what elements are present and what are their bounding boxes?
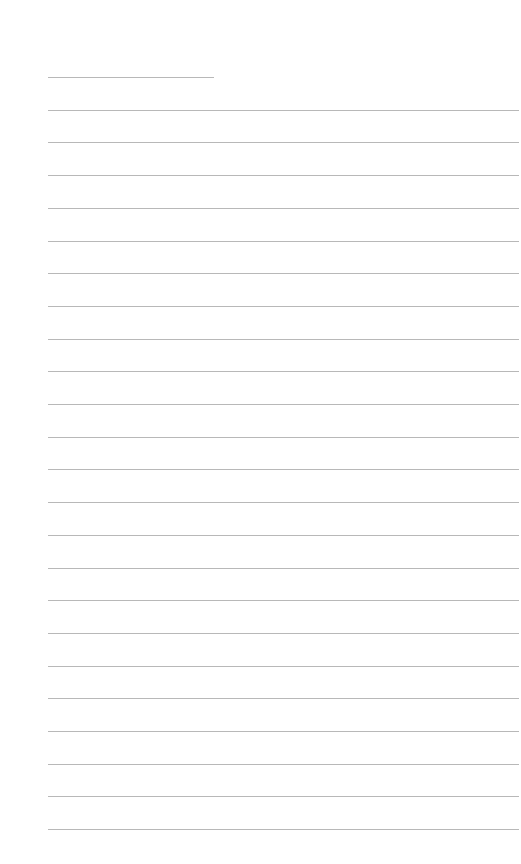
ruled-line (48, 469, 519, 470)
ruled-line (48, 764, 519, 765)
ruled-line (48, 796, 519, 797)
ruled-line (48, 568, 519, 569)
ruled-line (48, 698, 519, 699)
lined-paper-page (0, 0, 521, 864)
ruled-line (48, 110, 519, 111)
ruled-line (48, 437, 519, 438)
title-rule-line (48, 77, 214, 78)
ruled-line (48, 208, 519, 209)
ruled-line (48, 666, 519, 667)
ruled-line (48, 142, 519, 143)
ruled-line (48, 339, 519, 340)
ruled-line (48, 175, 519, 176)
ruled-line (48, 404, 519, 405)
ruled-line (48, 731, 519, 732)
ruled-line (48, 502, 519, 503)
ruled-line (48, 829, 519, 830)
ruled-line (48, 306, 519, 307)
ruled-line (48, 600, 519, 601)
ruled-line (48, 535, 519, 536)
ruled-line (48, 633, 519, 634)
ruled-line (48, 241, 519, 242)
ruled-line (48, 371, 519, 372)
ruled-line (48, 273, 519, 274)
